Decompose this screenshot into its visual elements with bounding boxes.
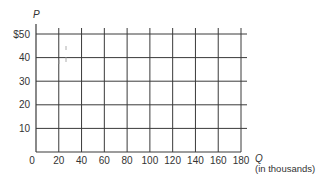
y-tick-label: 30: [19, 76, 31, 87]
x-tick-label: 80: [122, 155, 134, 166]
y-tick-label: 10: [19, 123, 31, 134]
x-tick-label: 20: [53, 155, 65, 166]
stray-pencil-marks: [59, 46, 66, 64]
y-tick-label: 20: [19, 99, 31, 110]
x-tick-label: 140: [187, 155, 204, 166]
x-axis-unit-label: (in thousands): [255, 163, 315, 174]
x-tick-label: 40: [76, 155, 88, 166]
price-quantity-grid-chart: 020406080100120140160180 10203040$50 P Q…: [0, 0, 324, 184]
x-tick-label: 60: [99, 155, 111, 166]
x-tick-label: 160: [210, 155, 227, 166]
x-tick-label: 0: [29, 155, 35, 166]
x-tick-label: 120: [164, 155, 181, 166]
y-tick-label: 40: [19, 52, 31, 63]
x-tick-label: 180: [233, 155, 250, 166]
x-tick-label: 100: [142, 155, 159, 166]
y-axis-title: P: [33, 9, 40, 20]
y-tick-label: $50: [13, 29, 30, 40]
